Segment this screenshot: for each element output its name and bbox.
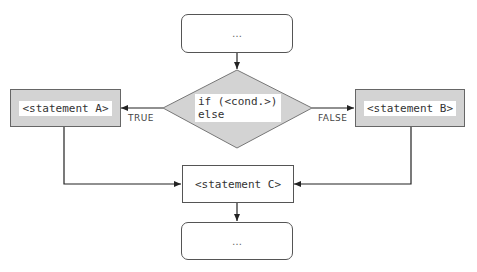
statement-a-label: <statement A>	[19, 101, 111, 116]
decision-label-wrap: if (<cond.>) else	[195, 100, 281, 116]
statement-c-label: <statement C>	[195, 178, 281, 191]
statement-a-node[interactable]: <statement A>	[10, 89, 121, 127]
end-node-label: …	[232, 236, 242, 247]
false-edge-label: FALSE	[318, 113, 347, 123]
start-node[interactable]: …	[181, 14, 293, 53]
statement-c-node[interactable]: <statement C>	[182, 165, 294, 203]
decision-label: if (<cond.>) else	[195, 94, 281, 122]
statement-b-label: <statement B>	[364, 101, 456, 116]
start-node-label: …	[232, 28, 242, 39]
statement-b-node[interactable]: <statement B>	[355, 89, 465, 127]
end-node[interactable]: …	[181, 222, 293, 260]
true-edge-label: TRUE	[128, 113, 154, 123]
edge-a-to-c	[64, 127, 181, 184]
edge-b-to-c	[294, 127, 411, 184]
